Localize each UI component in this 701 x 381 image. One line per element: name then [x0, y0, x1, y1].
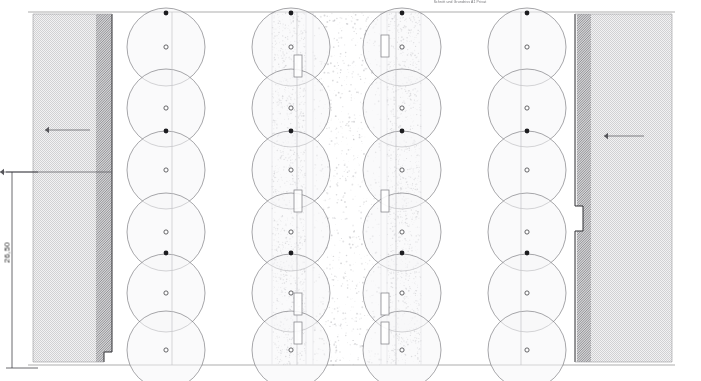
- cad-drawing-canvas: [0, 0, 701, 381]
- drawing-title: Schnitt und Grundriss A1 Privat: [400, 0, 520, 5]
- architectural-drawing: Schnitt und Grundriss A1 Privat 26,50: [0, 0, 701, 381]
- vertical-dimension-label: 26,50: [3, 237, 12, 269]
